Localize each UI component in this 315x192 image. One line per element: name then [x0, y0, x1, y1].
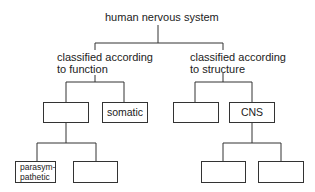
empty-function-box	[43, 102, 89, 123]
empty-structure-box	[173, 102, 219, 123]
function-branch-label-line2: to function	[57, 63, 108, 75]
structure-branch-label-line2: to structure	[190, 63, 245, 75]
somatic-box: somatic	[102, 102, 148, 123]
root-node-label: human nervous system	[105, 11, 219, 23]
empty-autonomic-sub-box	[73, 161, 118, 183]
parasympathetic-box: parasym- pathetic	[15, 161, 56, 183]
function-branch-label-line1: classified according	[57, 51, 153, 63]
empty-cns-sub-box-2	[258, 161, 304, 183]
cns-box: CNS	[229, 102, 275, 123]
structure-branch-label-line1: classified according	[190, 51, 286, 63]
empty-cns-sub-box-1	[201, 161, 246, 183]
